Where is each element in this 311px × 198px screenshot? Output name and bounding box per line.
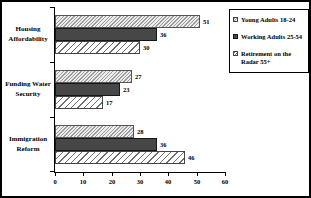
value-label: 28	[137, 129, 144, 136]
x-axis-tick	[197, 172, 198, 176]
legend-item: Retirement on the Radar 55+	[233, 50, 305, 68]
x-axis-tick-label: 10	[76, 179, 90, 186]
x-axis-tick	[140, 172, 141, 176]
x-axis-tick-label: 0	[48, 179, 62, 186]
bar-hatch-wide	[55, 96, 103, 109]
x-axis-tick	[112, 172, 113, 176]
bar-hatch-wide	[55, 151, 185, 164]
bar-solid-dark	[55, 28, 157, 41]
x-axis-tick-label: 30	[133, 179, 147, 186]
legend-item: Working Adults 25-54	[233, 33, 305, 42]
value-label: 51	[203, 19, 210, 26]
legend-item: Young Adults 18-24	[233, 16, 305, 25]
value-label: 30	[143, 45, 150, 52]
x-axis-tick	[55, 172, 56, 176]
x-axis-tick	[83, 172, 84, 176]
value-label: 23	[123, 87, 130, 94]
legend-label: Retirement on the Radar 55+	[241, 50, 305, 68]
x-axis-tick	[225, 172, 226, 176]
bar-hatch-fine	[55, 70, 132, 83]
category-label: Housing Affordability	[3, 7, 53, 62]
legend-label: Working Adults 25-54	[241, 33, 302, 42]
x-axis-tick-label: 40	[161, 179, 175, 186]
bar-hatch-fine	[55, 15, 200, 28]
bar-solid-dark	[55, 138, 157, 151]
category-label: Funding Water Security	[3, 62, 53, 117]
x-axis-tick-label: 60	[218, 179, 232, 186]
legend-box: Young Adults 18-24Working Adults 25-54Re…	[229, 9, 309, 73]
bar-hatch-wide	[55, 41, 140, 54]
value-label: 27	[135, 74, 142, 81]
value-label: 46	[188, 155, 195, 162]
bar-hatch-fine	[55, 125, 134, 138]
category-label: Immigration Reform	[3, 117, 53, 172]
bar-solid-dark	[55, 83, 120, 96]
legend-label: Young Adults 18-24	[241, 16, 295, 25]
hatch-fine-swatch-icon	[233, 17, 238, 22]
plot-area: 5136302723172836460102030405060	[54, 7, 225, 173]
value-label: 36	[160, 32, 167, 39]
solid-dark-swatch-icon	[233, 34, 238, 39]
x-axis-tick-label: 20	[105, 179, 119, 186]
value-label: 36	[160, 142, 167, 149]
x-axis-tick	[168, 172, 169, 176]
x-axis-tick-label: 50	[190, 179, 204, 186]
value-label: 17	[106, 100, 113, 107]
chart-window: 5136302723172836460102030405060 Housing …	[0, 0, 311, 198]
hatch-wide-swatch-icon	[233, 51, 238, 56]
